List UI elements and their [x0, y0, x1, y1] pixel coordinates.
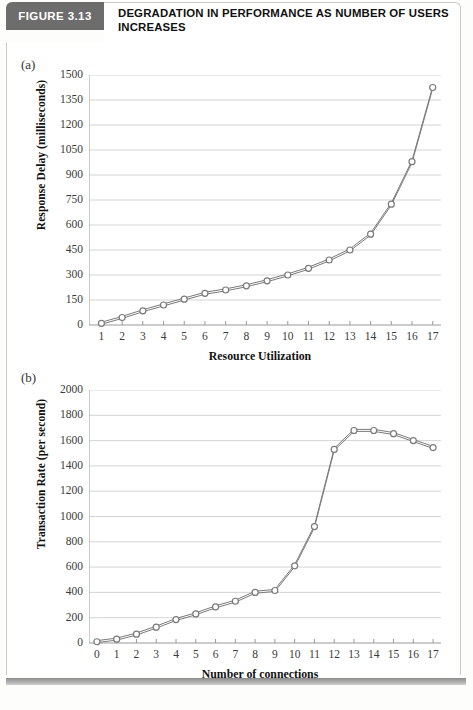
series-line-upper [101, 86, 432, 322]
x-tick-label: 10 [277, 331, 299, 343]
x-tick-label: 14 [363, 649, 385, 661]
x-tick-label: 10 [284, 649, 306, 661]
y-tick-label: 0 [43, 637, 83, 649]
x-tick-label: 12 [318, 331, 340, 343]
chart-a-plot-area [89, 75, 441, 325]
data-point-marker [153, 624, 159, 630]
y-tick-label: 150 [43, 294, 83, 306]
y-tick-label: 200 [43, 612, 83, 624]
data-point-marker [161, 302, 167, 308]
data-point-marker [311, 524, 317, 530]
x-tick-label: 3 [132, 331, 154, 343]
data-point-marker [213, 604, 219, 610]
y-tick-label: 1200 [43, 485, 83, 497]
x-tick-label: 6 [194, 331, 216, 343]
data-point-marker [114, 636, 120, 642]
x-tick-label: 2 [111, 331, 133, 343]
y-tick-label: 450 [43, 244, 83, 256]
data-point-marker [223, 287, 229, 293]
plot-a-svg [89, 75, 447, 335]
y-tick-label: 600 [43, 219, 83, 231]
data-point-marker [243, 283, 249, 289]
x-tick-label: 9 [264, 649, 286, 661]
x-tick-label: 11 [303, 649, 325, 661]
data-point-marker [252, 589, 258, 595]
x-tick-label: 0 [86, 649, 108, 661]
data-point-marker [388, 201, 394, 207]
x-tick-label: 12 [323, 649, 345, 661]
data-point-marker [119, 315, 125, 321]
data-point-marker [347, 247, 353, 253]
data-point-marker [410, 438, 416, 444]
y-tick-label: 800 [43, 536, 83, 548]
data-point-marker [391, 431, 397, 437]
x-tick-label: 3 [145, 649, 167, 661]
x-tick-label: 2 [125, 649, 147, 661]
figure-title-box: DEGRADATION IN PERFORMANCE AS NUMBER OF … [104, 2, 461, 43]
y-tick-label: 1050 [43, 144, 83, 156]
data-point-marker [98, 320, 104, 326]
x-tick-label: 6 [205, 649, 227, 661]
y-tick-label: 0 [43, 319, 83, 331]
data-point-marker [371, 427, 377, 433]
chart-b-plot-area [89, 390, 441, 643]
figure-header: FIGURE 3.13 DEGRADATION IN PERFORMANCE A… [6, 2, 461, 43]
data-point-marker [264, 278, 270, 284]
figure-page: FIGURE 3.13 DEGRADATION IN PERFORMANCE A… [0, 0, 473, 710]
chart-panel-b: (b) Transaction Rate (per second) Number… [7, 370, 462, 670]
data-point-marker [272, 588, 278, 594]
data-point-marker [351, 427, 357, 433]
data-point-marker [94, 639, 100, 645]
x-tick-label: 1 [90, 331, 112, 343]
series-line-lower [97, 431, 433, 642]
x-tick-label: 13 [339, 331, 361, 343]
data-point-marker [326, 257, 332, 263]
figure-title: DEGRADATION IN PERFORMANCE AS NUMBER OF … [118, 7, 450, 34]
data-point-marker [173, 617, 179, 623]
y-tick-label: 1600 [43, 435, 83, 447]
x-tick-label: 5 [185, 649, 207, 661]
x-tick-label: 7 [215, 331, 237, 343]
x-tick-label: 5 [173, 331, 195, 343]
data-point-marker [368, 231, 374, 237]
data-point-marker [331, 446, 337, 452]
series-line-upper [97, 429, 433, 640]
panel-b-letter: (b) [21, 370, 36, 386]
x-tick-label: 13 [343, 649, 365, 661]
plot-b-svg [89, 390, 447, 653]
x-tick-label: 4 [153, 331, 175, 343]
x-tick-label: 1 [106, 649, 128, 661]
chart-a-x-axis-label: Resource Utilization [63, 349, 457, 364]
y-tick-label: 1200 [43, 119, 83, 131]
y-tick-label: 400 [43, 586, 83, 598]
x-tick-label: 4 [165, 649, 187, 661]
x-tick-label: 8 [244, 649, 266, 661]
x-tick-label: 14 [360, 331, 382, 343]
data-point-marker [430, 85, 436, 91]
x-tick-label: 17 [422, 331, 444, 343]
y-tick-label: 2000 [43, 384, 83, 396]
x-tick-label: 16 [401, 331, 423, 343]
x-tick-label: 9 [256, 331, 278, 343]
y-tick-label: 1000 [43, 511, 83, 523]
x-tick-label: 11 [297, 331, 319, 343]
data-point-marker [202, 290, 208, 296]
data-point-marker [430, 445, 436, 451]
data-point-marker [181, 296, 187, 302]
x-tick-label: 16 [402, 649, 424, 661]
data-point-marker [193, 611, 199, 617]
x-tick-label: 8 [235, 331, 257, 343]
series-line-lower [101, 88, 432, 324]
data-point-marker [285, 272, 291, 278]
data-point-marker [409, 159, 415, 165]
y-tick-label: 750 [43, 194, 83, 206]
data-point-marker [133, 631, 139, 637]
y-tick-label: 900 [43, 169, 83, 181]
page-footer-bar [6, 678, 466, 685]
panel-a-letter: (a) [21, 57, 35, 73]
data-point-marker [232, 598, 238, 604]
y-tick-label: 1400 [43, 460, 83, 472]
figure-body: (a) Response Delay (milliseconds) Resour… [6, 43, 461, 675]
x-tick-label: 15 [380, 331, 402, 343]
data-point-marker [140, 308, 146, 314]
